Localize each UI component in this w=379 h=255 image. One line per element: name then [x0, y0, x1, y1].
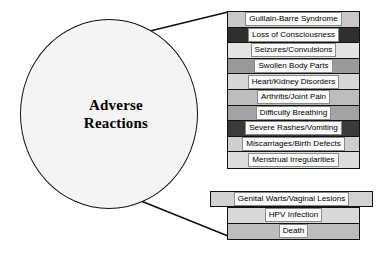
- reaction-label: Arthritis/Joint Pain: [257, 90, 330, 104]
- adverse-reactions-label: Adverse Reactions: [70, 96, 148, 133]
- connector-line-top: [150, 12, 228, 31]
- reaction-label: Swollen Body Parts: [254, 59, 332, 73]
- reaction-label: Death: [279, 224, 309, 238]
- reaction-label: Heart/Kidney Disorders: [248, 75, 340, 89]
- reaction-label: Difficulty Breathing: [256, 106, 331, 120]
- reaction-row[interactable]: Death: [228, 224, 359, 240]
- reaction-row[interactable]: Arthritis/Joint Pain: [228, 90, 359, 106]
- reaction-label: Genital Warts/Vaginal Lesions: [234, 192, 350, 206]
- reaction-row-genital-warts[interactable]: Genital Warts/Vaginal Lesions: [210, 191, 373, 207]
- adverse-reactions-circle: Adverse Reactions: [20, 19, 198, 209]
- reaction-row[interactable]: Difficulty Breathing: [228, 106, 359, 122]
- reaction-label: Guillain-Barre Syndrome: [245, 12, 342, 26]
- reaction-row[interactable]: Guillain-Barre Syndrome: [228, 12, 359, 28]
- reaction-label: Severe Rashes/Vomiting: [245, 121, 342, 135]
- reaction-row[interactable]: HPV Infection: [228, 208, 359, 224]
- reaction-label: HPV Infection: [265, 208, 323, 222]
- diagram-canvas: Adverse Reactions Guillain-Barre Syndrom…: [0, 0, 379, 255]
- reaction-label: Seizures/Convulsions: [251, 43, 337, 57]
- reaction-label: Loss of Consciousness: [248, 28, 339, 42]
- reaction-row[interactable]: Menstrual Irregularities: [228, 152, 359, 168]
- reactions-column-bottom: HPV Infection Death: [227, 207, 360, 240]
- reactions-column: Guillain-Barre Syndrome Loss of Consciou…: [227, 11, 360, 169]
- reaction-row[interactable]: Swollen Body Parts: [228, 59, 359, 75]
- reaction-label: Miscarriages/Birth Defects: [242, 137, 344, 151]
- reaction-label: Menstrual Irregularities: [248, 153, 338, 167]
- reaction-row[interactable]: Miscarriages/Birth Defects: [228, 137, 359, 153]
- reaction-row[interactable]: Severe Rashes/Vomiting: [228, 121, 359, 137]
- reaction-row[interactable]: Loss of Consciousness: [228, 28, 359, 44]
- reaction-row[interactable]: Seizures/Convulsions: [228, 43, 359, 59]
- reaction-row[interactable]: Heart/Kidney Disorders: [228, 74, 359, 90]
